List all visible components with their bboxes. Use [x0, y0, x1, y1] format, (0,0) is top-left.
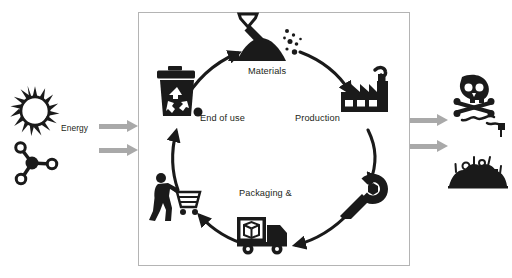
arrow-head	[127, 120, 138, 132]
sun-icon	[8, 84, 62, 138]
arrow-shaft	[99, 124, 128, 129]
wrench-icon	[336, 170, 388, 220]
skull-crossbones-icon	[445, 74, 507, 136]
factory-icon	[338, 66, 394, 114]
delivery-truck-icon	[236, 212, 294, 256]
arrow-shaft	[99, 148, 128, 153]
arrow-head	[437, 140, 448, 152]
label-materials: Materials	[248, 66, 286, 76]
landfill-icon	[448, 144, 508, 190]
label-end-of-use: End of use	[200, 113, 245, 123]
label-packaging: Packaging &	[239, 188, 292, 198]
recycle-bin-icon	[152, 66, 204, 122]
label-energy: Energy	[61, 123, 88, 133]
shopper-cart-icon	[148, 172, 204, 224]
emissions-output-arrow	[409, 114, 449, 126]
diagram-canvas: Energy Materials Production End of use P…	[0, 0, 512, 278]
mining-shovel-icon	[228, 10, 304, 62]
label-production: Production	[295, 113, 340, 123]
molecule-icon	[10, 140, 60, 186]
arrow-shaft	[409, 118, 438, 123]
arrow-shaft	[409, 144, 438, 149]
arrow-head	[127, 144, 138, 156]
material-input-arrow	[99, 144, 139, 156]
energy-input-arrow	[99, 120, 139, 132]
waste-output-arrow	[409, 140, 449, 152]
